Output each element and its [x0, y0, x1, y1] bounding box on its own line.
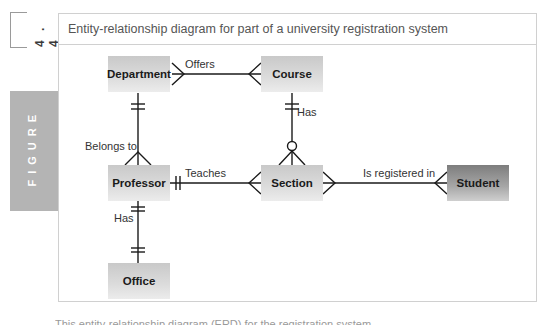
entity-department: Department — [108, 56, 170, 92]
entity-section: Section — [261, 165, 323, 201]
er-connectors — [0, 0, 545, 325]
entity-student: Student — [447, 165, 509, 201]
entity-office: Office — [108, 263, 170, 299]
entity-professor: Professor — [108, 165, 170, 201]
has-professor-office-connector — [131, 201, 145, 263]
label-has-professor-office: Has — [114, 212, 134, 224]
body-text-fragment: This entity-relationship diagram (ERD) f… — [55, 315, 383, 325]
label-teaches: Teaches — [185, 167, 226, 179]
label-is-registered-in: Is registered in — [363, 167, 435, 179]
belongs-to-connector — [125, 93, 151, 165]
entity-course: Course — [261, 56, 323, 92]
label-offers: Offers — [185, 58, 215, 70]
zero-circle-icon — [288, 142, 297, 151]
label-has-course-section: Has — [297, 106, 317, 118]
has-course-section-connector — [279, 93, 305, 165]
label-belongs-to: Belongs to — [85, 140, 137, 152]
